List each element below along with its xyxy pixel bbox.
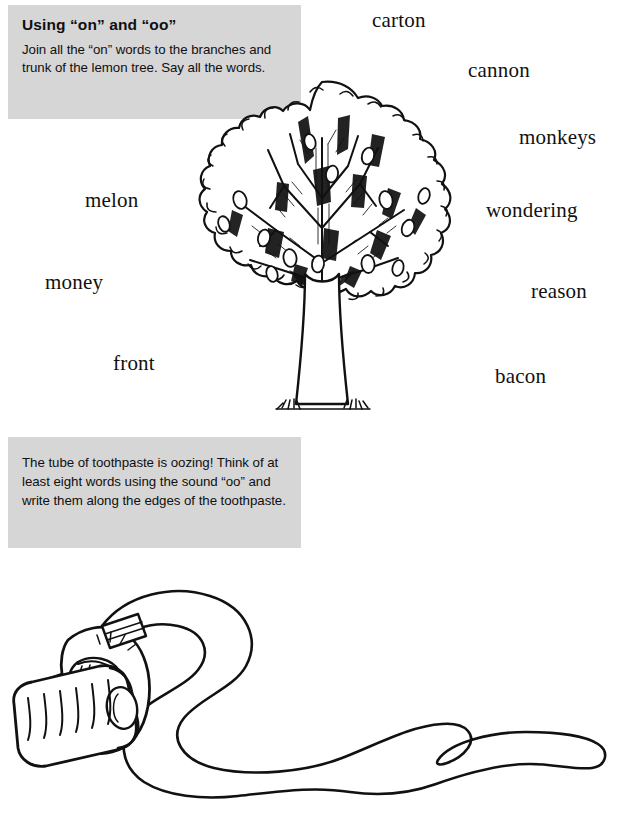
- toothpaste-tube-body: [33, 614, 150, 754]
- oozing-paste-ribbon: [102, 591, 605, 797]
- word-label-cannon[interactable]: cannon: [468, 58, 530, 83]
- tree-branches: [244, 134, 404, 313]
- tube-neck: [102, 614, 146, 648]
- instruction-box-activity-1: Using “on” and “oo” Join all the “on” wo…: [8, 5, 301, 119]
- word-label-reason[interactable]: reason: [531, 279, 587, 304]
- word-label-money[interactable]: money: [45, 270, 103, 295]
- toothpaste-illustration: [6, 578, 620, 810]
- word-label-melon[interactable]: melon: [85, 188, 139, 213]
- tree-trunk: [289, 270, 355, 404]
- lemon-tree-illustration: [172, 78, 482, 423]
- word-label-front[interactable]: front: [113, 351, 155, 376]
- tube-expression-lines: [80, 632, 136, 728]
- activity-1-instructions: Join all the “on” words to the branches …: [22, 41, 287, 79]
- word-label-monkeys[interactable]: monkeys: [519, 125, 596, 150]
- instruction-box-activity-2: The tube of toothpaste is oozing! Think …: [8, 437, 301, 548]
- grass-tufts: [276, 399, 370, 409]
- tube-crimp-marks: [28, 680, 110, 740]
- word-label-wondering[interactable]: wondering: [486, 198, 578, 223]
- canopy-shading: [228, 115, 426, 288]
- worksheet-page: Using “on” and “oo” Join all the “on” wo…: [0, 0, 626, 837]
- tube-teeth: [75, 665, 119, 697]
- lemon-fruit: [216, 133, 432, 283]
- canopy-scallops: [203, 87, 447, 299]
- branch-hatching: [252, 130, 396, 260]
- word-label-bacon[interactable]: bacon: [495, 364, 546, 389]
- tube-mouth: [69, 658, 124, 712]
- activity-1-title: Using “on” and “oo”: [22, 16, 287, 35]
- word-label-carton[interactable]: carton: [372, 8, 426, 33]
- activity-2-instructions: The tube of toothpaste is oozing! Think …: [22, 454, 287, 511]
- tube-rolled-end: [14, 666, 141, 767]
